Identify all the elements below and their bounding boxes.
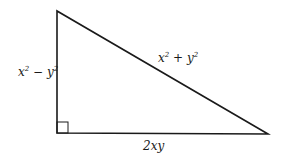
label-base: y: [47, 65, 54, 79]
horizontal-leg-label: 2xy: [143, 140, 164, 152]
right-angle-marker: [57, 122, 68, 133]
triangle-figure: [0, 0, 283, 163]
label-base: x: [18, 65, 25, 79]
label-operator: +: [169, 51, 187, 65]
label-exponent: 2: [54, 65, 58, 73]
label-exponent: 2: [194, 51, 198, 59]
label-base: x: [158, 51, 165, 65]
triangle: [57, 11, 268, 134]
label-base: y: [187, 51, 194, 65]
hypotenuse-label: x2 + y2: [158, 52, 198, 64]
vertical-leg-label: x2 − y2: [18, 66, 58, 78]
label-operator: −: [29, 65, 47, 79]
